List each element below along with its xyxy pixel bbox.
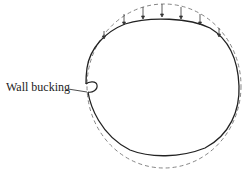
wall-buckling-label: Wall bucking <box>6 80 70 95</box>
label-leader-line <box>68 89 87 92</box>
load-arrows <box>103 4 221 39</box>
arrow-icon <box>180 7 183 19</box>
deformed-wall-outline <box>86 19 239 156</box>
arrow-icon <box>199 14 202 25</box>
original-circle-outline <box>87 4 241 168</box>
diagram-canvas: Wall bucking <box>0 0 243 176</box>
arrow-icon <box>142 7 145 19</box>
wall-buckle-lobe <box>86 82 97 92</box>
arrow-icon <box>161 4 164 17</box>
